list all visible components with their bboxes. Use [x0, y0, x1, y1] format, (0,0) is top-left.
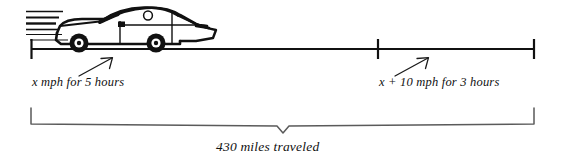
segment-2-label: x + 10 mph for 3 hours — [379, 76, 499, 89]
number-line — [31, 39, 535, 59]
segment-1-label: x mph for 5 hours — [32, 76, 124, 89]
distance-rate-time-diagram: x mph for 5 hours x + 10 mph for 3 hours… — [0, 0, 564, 167]
car-door-handle — [118, 22, 125, 28]
total-distance-label: 430 miles traveled — [216, 140, 319, 154]
car-icon — [56, 7, 216, 52]
pointer-arrow-right — [395, 58, 429, 76]
car-rear — [178, 16, 216, 42]
pointer-arrow-left — [79, 58, 113, 76]
total-distance-brace — [31, 108, 534, 133]
car-window-circle — [144, 11, 153, 20]
